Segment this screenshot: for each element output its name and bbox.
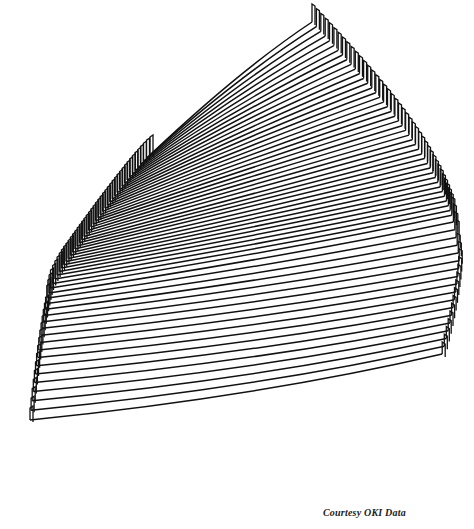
right-fin-edge [399,103,402,124]
right-fin-edge [388,89,391,110]
right-fin-edge [330,23,333,44]
profile-curve [32,339,446,401]
right-fin-edge [372,70,375,91]
right-fin-edge [338,32,341,53]
right-fin-edge [316,9,319,30]
right-fin-edge [312,4,315,25]
credit-caption: Courtesy OKI Data [323,507,406,518]
wireframe-surface-plot [0,0,474,529]
profile-curve [33,331,448,392]
right-fin-edge [347,42,350,63]
right-fin-edge [355,51,358,72]
profile-curve [57,201,446,275]
right-fin-edge [402,108,405,129]
right-fin-edge [343,37,346,58]
profile-curve [107,97,379,205]
right-fin-edge [380,79,383,100]
profile-curve [91,130,406,227]
profile-curve [30,354,442,420]
right-fin-edge [409,117,412,138]
right-fin-edge [368,65,371,86]
right-fin-edge [384,84,387,105]
right-fin-edge [376,75,379,96]
right-fin-edge [395,98,398,119]
right-fin-edge [364,61,367,82]
profile-curve [31,346,444,410]
right-fin-edge [360,56,363,77]
right-fin-edge [325,18,328,39]
profile-curve [42,269,459,329]
right-fin-edge [412,122,415,143]
right-fin-edge [351,46,354,67]
right-fin-edge [406,112,409,133]
right-fin-edge [321,13,324,34]
right-fin-edge [391,94,394,115]
right-fin-edge [334,28,337,49]
profile-curve [34,323,450,383]
